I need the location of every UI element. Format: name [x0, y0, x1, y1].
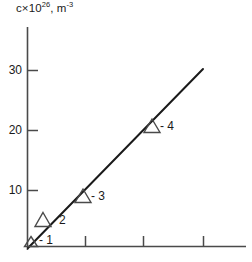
point-label-4: - 4 [160, 119, 174, 133]
y-tick-label-10: 10 [0, 183, 22, 197]
chart-figure: c×1026, m-3 30 20 10 - 1 2 - 3 - 4 [0, 0, 252, 262]
data-marker-2[interactable] [35, 213, 51, 227]
fit-line [28, 69, 203, 248]
point-label-2: 2 [59, 213, 66, 227]
point-label-3: - 3 [91, 189, 105, 203]
point-label-1: - 1 [39, 233, 53, 247]
y-tick-label-30: 30 [0, 63, 22, 77]
y-tick-label-20: 20 [0, 123, 22, 137]
plot-area [0, 0, 252, 262]
